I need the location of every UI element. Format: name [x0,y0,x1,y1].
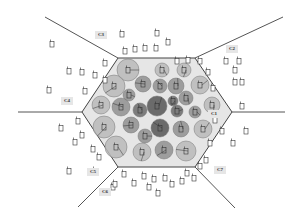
cell-boundary-line [195,17,283,58]
coverage-circle [168,78,184,94]
mobile-phone-icon [154,44,158,52]
coverage-circle [176,141,196,161]
cell-label-c7: C7 [214,166,226,174]
coverage-circle [92,96,110,114]
mobile-phone-icon [120,30,124,38]
coverage-circle [191,76,209,94]
network-cell-diagram: C1C2C3C4C5C6C7 [0,0,302,219]
mobile-phone-icon [237,57,241,65]
mobile-phone-icon [147,183,151,191]
cell-label-c6: C6 [99,188,111,196]
mobile-phone-icon [59,124,63,132]
mobile-phone-icon [122,170,126,178]
cell-label-c3: C3 [95,31,107,39]
mobile-phone-icon [233,66,237,74]
mobile-phone-icon [50,40,54,48]
coverage-circle [168,96,178,106]
cell-label-c1: C1 [208,110,220,118]
coverage-circle [155,141,173,159]
mobile-phone-icon [224,57,228,65]
mobile-phone-icon [97,153,101,161]
mobile-phone-icon [231,139,235,147]
mobile-phone-icon [198,162,202,170]
mobile-phone-icon [166,38,170,46]
coverage-circle [105,136,127,158]
cell-label-c2: C2 [226,45,238,53]
mobile-phone-icon [67,67,71,75]
coverage-circle [133,103,147,117]
coverage-circle [151,119,169,137]
coverage-circle [153,79,167,93]
cell-label-c5: C5 [87,168,99,176]
mobile-phone-icon [133,45,137,53]
cell-label-c4: C4 [61,97,73,105]
mobile-phone-icon [67,167,71,175]
mobile-phone-icon [198,57,202,65]
mobile-phone-icon [80,131,84,139]
mobile-phone-icon [233,78,237,86]
mobile-phone-icon [180,177,184,185]
coverage-circle [93,116,115,138]
coverage-circle [171,105,183,117]
mobile-phone-icon [93,71,97,79]
mobile-phone-icon [91,145,95,153]
mobile-phone-icon [163,174,167,182]
mobile-phone-icon [170,180,174,188]
mobile-phone-icon [186,56,190,64]
mobile-phone-icon [142,172,146,180]
mobile-phone-icon [152,175,156,183]
mobile-phone-icon [192,174,196,182]
mobile-phone-icon [185,169,189,177]
mobile-phone-icon [204,156,208,164]
mobile-phone-icon [103,59,107,67]
mobile-phone-icon [83,87,87,95]
mobile-phone-icon [143,44,147,52]
mobile-phone-icon [80,68,84,76]
mobile-phone-icon [155,29,159,37]
mobile-phone-icon [244,127,248,135]
mobile-phone-icon [240,78,244,86]
mobile-phone-icon [113,180,117,188]
mobile-phone-icon [76,117,80,125]
diagram-canvas [0,0,302,219]
mobile-phone-icon [132,179,136,187]
coverage-circle [173,121,189,137]
mobile-phone-icon [240,102,244,110]
mobile-phone-icon [47,86,51,94]
coverage-circle [179,91,193,105]
mobile-phone-icon [123,47,127,55]
mobile-phone-icon [73,138,77,146]
mobile-phone-icon [156,189,160,197]
mobile-phone-icon [206,68,210,76]
coverage-circle [147,96,167,116]
coverage-circle [189,106,201,118]
coverage-circle [112,98,130,116]
